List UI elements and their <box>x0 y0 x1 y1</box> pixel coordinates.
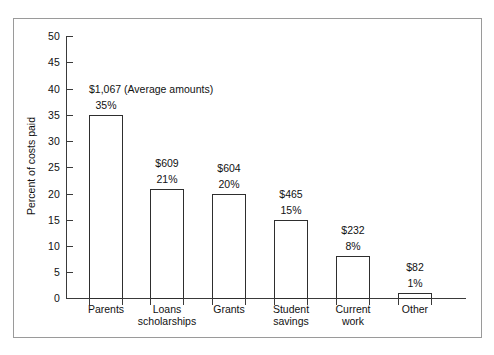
y-tick-10 <box>66 246 73 247</box>
y-tick-5 <box>66 272 73 273</box>
bar-percent-other: 1% <box>398 277 432 289</box>
y-tick-label-40: 40 <box>20 84 60 94</box>
x-label-loans-scholarships: Loans scholarships <box>135 303 199 327</box>
x-label-current-work-line1: Current <box>335 303 370 315</box>
bar-percent-loans-scholarships: 21% <box>150 173 184 185</box>
bar-student-savings[interactable] <box>274 220 308 299</box>
chart-plot-area: Percent of costs paid 0 5 10 15 20 25 30… <box>0 0 494 355</box>
y-tick-0 <box>66 298 73 299</box>
bar-amount-parents: $1,067 (Average amounts) <box>89 83 289 95</box>
bar-loans-scholarships[interactable] <box>150 189 184 299</box>
chart-screenshot: Percent of costs paid 0 5 10 15 20 25 30… <box>0 0 494 355</box>
x-label-grants: Grants <box>202 303 256 315</box>
x-label-student-savings-line2: savings <box>259 315 323 327</box>
bar-amount-current-work: $232 <box>336 224 370 236</box>
bar-current-work[interactable] <box>336 256 370 299</box>
y-tick-label-10: 10 <box>20 241 60 251</box>
y-tick-20 <box>66 194 73 195</box>
bar-grants[interactable] <box>212 194 246 299</box>
bar-percent-parents: 35% <box>89 99 123 111</box>
bar-percent-grants: 20% <box>212 178 246 190</box>
bar-other[interactable] <box>398 293 432 299</box>
bar-amount-grants: $604 <box>212 162 246 174</box>
x-label-parents: Parents <box>79 303 133 315</box>
y-tick-label-25: 25 <box>20 162 60 172</box>
y-tick-label-15: 15 <box>20 215 60 225</box>
bar-percent-current-work: 8% <box>336 240 370 252</box>
x-label-parents-line1: Parents <box>88 303 124 315</box>
bar-percent-student-savings: 15% <box>274 204 308 216</box>
y-tick-label-35: 35 <box>20 110 60 120</box>
x-label-grants-line1: Grants <box>213 303 245 315</box>
bar-amount-other: $82 <box>398 261 432 273</box>
y-tick-30 <box>66 141 73 142</box>
x-label-loans-line2: scholarships <box>135 315 199 327</box>
y-tick-label-50: 50 <box>20 31 60 41</box>
y-tick-label-30: 30 <box>20 136 60 146</box>
bar-parents[interactable] <box>89 115 123 299</box>
y-tick-45 <box>66 62 73 63</box>
y-tick-label-20: 20 <box>20 189 60 199</box>
y-tick-40 <box>66 89 73 90</box>
y-tick-label-0: 0 <box>20 293 60 303</box>
x-label-student-savings-line1: Student <box>273 303 309 315</box>
y-tick-25 <box>66 167 73 168</box>
bar-amount-loans-scholarships: $609 <box>150 157 184 169</box>
bar-amount-student-savings: $465 <box>274 188 308 200</box>
x-label-loans-line1: Loans <box>153 303 182 315</box>
x-label-other-line1: Other <box>402 303 428 315</box>
y-tick-50 <box>66 36 73 37</box>
y-tick-15 <box>66 220 73 221</box>
x-label-student-savings: Student savings <box>259 303 323 327</box>
x-label-current-work: Current work <box>321 303 385 327</box>
y-tick-label-45: 45 <box>20 57 60 67</box>
y-tick-label-5: 5 <box>20 267 60 277</box>
x-label-current-work-line2: work <box>321 315 385 327</box>
x-label-other: Other <box>388 303 442 315</box>
y-tick-35 <box>66 115 73 116</box>
